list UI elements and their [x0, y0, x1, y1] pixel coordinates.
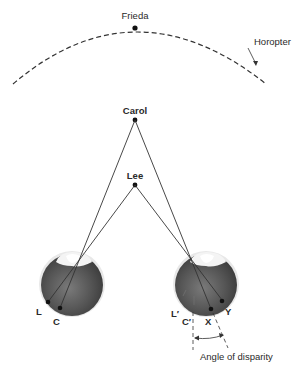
right-x-label: X: [205, 316, 212, 327]
horopter-arc: [13, 32, 266, 84]
left-l-dot: [46, 300, 51, 305]
frieda-label: Frieda: [122, 10, 150, 21]
right-y-label: Y: [225, 306, 232, 317]
x-projection: [213, 313, 228, 348]
angle-of-disparity-label: Angle of disparity: [200, 351, 273, 362]
binocular-disparity-diagram: Frieda Horopter Carol Lee L C L′ C′ X Y: [0, 0, 299, 374]
right-y-dot: [220, 299, 225, 304]
left-c-label: C: [53, 316, 60, 327]
left-l-label: L: [36, 306, 42, 317]
right-x-dot: [209, 307, 214, 312]
frieda-dot: [132, 25, 137, 30]
lee-label: Lee: [127, 170, 143, 181]
right-c-label: C′: [182, 316, 192, 327]
horopter-label: Horopter: [254, 36, 291, 47]
left-eye: [39, 251, 105, 317]
carol-to-right-x: [135, 120, 211, 309]
horopter-arrowhead: [253, 61, 258, 66]
angle-arrow-left: [194, 336, 199, 341]
carol-label: Carol: [123, 105, 147, 116]
disparity-angle-arc: [195, 335, 223, 339]
right-l-label: L′: [171, 308, 180, 319]
left-c-dot: [58, 306, 63, 311]
